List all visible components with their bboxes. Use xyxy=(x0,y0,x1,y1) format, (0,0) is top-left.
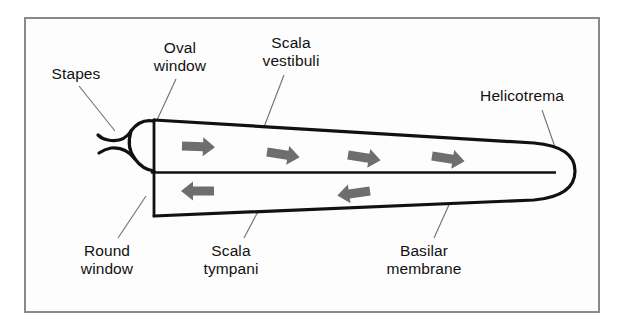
label-basilar-membrane: Basilarmembrane xyxy=(366,242,482,277)
label-oval-window: Ovalwindow xyxy=(134,39,226,74)
label-scala-tympani-line-1: Scala xyxy=(183,242,279,260)
label-oval-window-line-1: Oval xyxy=(134,39,226,57)
leader-oval-window xyxy=(157,79,176,120)
label-scala-tympani-line-2: tympani xyxy=(183,260,279,278)
label-scala-vestibuli: Scalavestibuli xyxy=(243,34,339,69)
stapes-shape xyxy=(98,121,154,171)
label-basilar-membrane-line-2: membrane xyxy=(366,260,482,278)
label-round-window-line-2: window xyxy=(60,260,154,278)
label-scala-vestibuli-line-2: vestibuli xyxy=(243,52,339,70)
label-basilar-membrane-line-1: Basilar xyxy=(366,242,482,260)
label-scala-vestibuli-line-1: Scala xyxy=(243,34,339,52)
label-helicotrema-line-1: Helicotrema xyxy=(460,87,584,105)
leader-round-window xyxy=(118,196,146,238)
label-oval-window-line-2: window xyxy=(134,57,226,75)
figure-canvas: StapesOvalwindowScalavestibuliHelicotrem… xyxy=(0,0,626,331)
label-stapes: Stapes xyxy=(36,65,116,83)
leader-stapes xyxy=(79,86,115,131)
label-round-window: Roundwindow xyxy=(60,242,154,277)
label-stapes-line-1: Stapes xyxy=(36,65,116,83)
label-scala-tympani: Scalatympani xyxy=(183,242,279,277)
label-round-window-line-1: Round xyxy=(60,242,154,260)
label-helicotrema: Helicotrema xyxy=(460,87,584,105)
